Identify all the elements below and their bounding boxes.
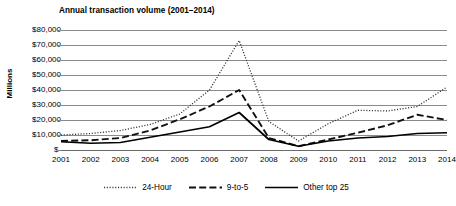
x-axis-tick-label: 2011: [349, 155, 366, 164]
x-axis-tick-label: 2007: [230, 155, 248, 164]
x-axis-tick-label: 2006: [201, 155, 219, 164]
x-axis-tick-label: 2005: [171, 155, 189, 164]
y-axis-tick-label: $60,000: [9, 55, 61, 64]
chart-legend: 24-Hour9-to-5Other top 25: [0, 183, 453, 192]
y-axis-tick-label: $40,000: [9, 85, 61, 94]
y-axis-tick-label: $50,000: [9, 70, 61, 79]
y-axis-tick-label: $30,000: [9, 100, 61, 109]
y-axis-tick-label: $20,000: [9, 115, 61, 124]
x-axis-tick-label: 2004: [141, 155, 159, 164]
x-axis-tick-label: 2010: [319, 155, 337, 164]
x-axis-tick-label: 2001: [52, 155, 70, 164]
x-axis-tick-label: 2008: [260, 155, 278, 164]
plot-area: [61, 30, 447, 150]
y-axis-tick-label: $70,000: [9, 40, 61, 49]
legend-entry[interactable]: Other top 25: [265, 183, 349, 192]
chart-title: Annual transaction volume (2001–2014): [59, 6, 215, 15]
legend-entry[interactable]: 24-Hour: [104, 183, 172, 192]
series-line-other-top-25: [61, 113, 447, 147]
x-axis-tick-label: 2014: [438, 155, 456, 164]
x-axis-tick-label: 2003: [111, 155, 129, 164]
legend-label: Other top 25: [303, 183, 349, 192]
gridline: [61, 150, 447, 151]
x-axis-tick-label: 2012: [379, 155, 397, 164]
x-axis-tick-label: 2013: [408, 155, 426, 164]
legend-swatch-solid-icon: [265, 184, 298, 191]
series-line-9-to-5: [61, 90, 447, 146]
y-axis-labels: $80,000$70,000$60,000$50,000$40,000$30,0…: [0, 0, 61, 206]
legend-swatch-dashed-icon: [189, 184, 222, 191]
legend-swatch-dotted-icon: [104, 184, 137, 191]
series-lines: [61, 30, 447, 150]
legend-label: 24-Hour: [142, 183, 172, 192]
legend-entry[interactable]: 9-to-5: [189, 183, 248, 192]
y-axis-tick-label: $-: [9, 145, 61, 154]
x-axis-tick-label: 2002: [82, 155, 100, 164]
y-axis-tick-label: $80,000: [9, 25, 61, 34]
y-axis-tick-label: $10,000: [9, 130, 61, 139]
x-axis-tick-label: 2009: [290, 155, 308, 164]
legend-label: 9-to-5: [227, 183, 248, 192]
x-axis-labels: 2001200220032004200520062007200820092010…: [61, 153, 447, 167]
